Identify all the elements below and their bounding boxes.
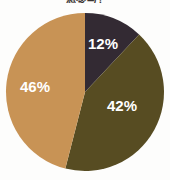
pie-slice-value-label: 42% — [107, 97, 137, 114]
pie-slice-value-label: 46% — [20, 78, 50, 95]
chart-title: 想参与? — [0, 0, 170, 3]
pie-chart-plot-area: 12%42%46% — [5, 12, 165, 172]
pie-slice-value-label: 12% — [88, 35, 118, 52]
pie-chart-figure: 想参与? 12%42%46% — [0, 0, 170, 180]
pie-chart-svg: 12%42%46% — [5, 12, 165, 172]
